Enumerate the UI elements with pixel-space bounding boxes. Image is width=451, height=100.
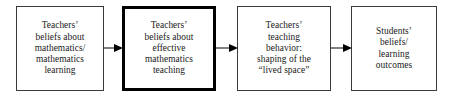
arrow-icon <box>216 43 238 53</box>
flow-node-label: Teachers’ teaching behavior: shaping of … <box>255 20 313 76</box>
flow-node-label: Teachers’ beliefs about effective mathem… <box>143 20 196 76</box>
flow-node-teachers-beliefs-effective-teaching: Teachers’ beliefs about effective mathem… <box>122 6 216 91</box>
flow-diagram: Teachers’ beliefs about mathematics/ mat… <box>0 0 451 100</box>
flow-node-teachers-teaching-behavior: Teachers’ teaching behavior: shaping of … <box>237 6 331 91</box>
flow-node-label: Teachers’ beliefs about mathematics/ mat… <box>33 20 88 76</box>
flow-node-teachers-beliefs-mathematics: Teachers’ beliefs about mathematics/ mat… <box>16 6 104 91</box>
arrow-icon <box>331 43 352 53</box>
flow-node-students-beliefs-outcomes: Students’ beliefs/ learning outcomes <box>351 6 437 91</box>
arrow-icon <box>104 43 123 53</box>
flow-node-label: Students’ beliefs/ learning outcomes <box>374 26 414 71</box>
